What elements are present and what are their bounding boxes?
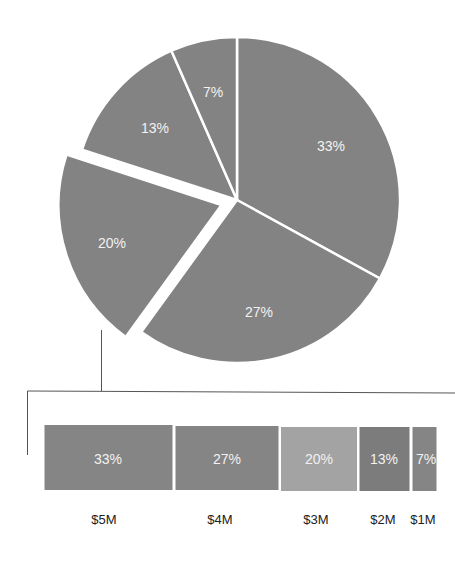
pie-chart: 33% 27% 20% 13% 7% xyxy=(59,37,401,363)
bar-label-3m: 20% xyxy=(305,451,333,467)
bar-label-5m: 33% xyxy=(94,451,122,467)
value-label-1m: $1M xyxy=(410,512,435,527)
bar-value-labels: $5M $4M $3M $2M $1M xyxy=(91,512,435,527)
value-label-3m: $3M xyxy=(303,512,328,527)
bar-label-4m: 27% xyxy=(213,451,241,467)
pie-label-1m: 7% xyxy=(203,84,223,100)
pie-label-3m: 20% xyxy=(98,235,126,251)
bar-label-2m: 13% xyxy=(370,451,398,467)
pie-to-bar-chart: 33% 27% 20% 13% 7% 33% 27% 20% 13% 7% $5… xyxy=(0,0,455,563)
value-label-5m: $5M xyxy=(91,512,116,527)
pie-label-4m: 27% xyxy=(245,304,273,320)
value-label-4m: $4M xyxy=(207,512,232,527)
bar-label-1m: 7% xyxy=(416,451,436,467)
value-label-2m: $2M xyxy=(370,512,395,527)
pie-label-5m: 33% xyxy=(317,138,345,154)
pie-label-2m: 13% xyxy=(141,120,169,136)
stacked-bar: 33% 27% 20% 13% 7% xyxy=(45,425,437,491)
